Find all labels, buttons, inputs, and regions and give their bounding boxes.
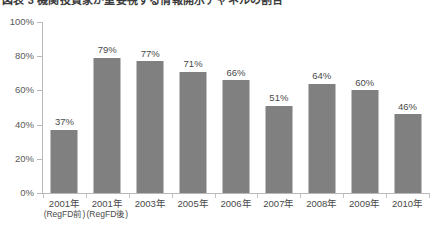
- bar-group[interactable]: 71%: [172, 22, 215, 193]
- bar-value-label: 77%: [141, 49, 160, 59]
- bar-value-label: 79%: [98, 45, 117, 55]
- x-axis-category-main: 2007年: [263, 198, 294, 209]
- y-axis-tick-label: 60%: [0, 85, 34, 95]
- x-axis-category-main: 2003年: [135, 198, 166, 209]
- y-axis-tick-label-text: 20%: [0, 154, 34, 164]
- bar[interactable]: [394, 114, 421, 193]
- bar-group[interactable]: 60%: [343, 22, 386, 193]
- bar[interactable]: [137, 61, 164, 193]
- y-axis-tick-label: 20%: [0, 154, 34, 164]
- bar-group[interactable]: 51%: [257, 22, 300, 193]
- y-axis-tick-label-text: 60%: [0, 85, 34, 95]
- y-axis-tick-label: 80%: [0, 51, 34, 61]
- bar[interactable]: [222, 80, 249, 193]
- y-axis-tick: [37, 193, 42, 194]
- y-axis-tick-label: 40%: [0, 120, 34, 130]
- bar-group[interactable]: 66%: [215, 22, 258, 193]
- x-axis-line: [42, 193, 430, 194]
- y-axis-tick-label: 0%: [0, 188, 34, 198]
- bar-group[interactable]: 64%: [300, 22, 343, 193]
- bar-value-label: 66%: [226, 68, 245, 78]
- x-axis-category-main: 2010年: [392, 198, 423, 209]
- bar[interactable]: [265, 106, 292, 193]
- y-axis-tick: [37, 125, 42, 126]
- bar-value-label: 60%: [355, 78, 374, 88]
- bar-value-label: 64%: [312, 71, 331, 81]
- bar-value-label: 46%: [398, 102, 417, 112]
- x-axis-category-main: 2005年: [178, 198, 209, 209]
- x-axis-category-main: 2001年: [92, 198, 123, 209]
- bar[interactable]: [308, 84, 335, 193]
- bar-chart: 0%20%40%60%80%100% 2001年(RegFD前)2001年(Re…: [0, 0, 436, 234]
- y-axis-tick-label-text: 40%: [0, 120, 34, 130]
- bar[interactable]: [351, 90, 378, 193]
- bar-value-label: 37%: [55, 117, 74, 127]
- bar-value-label: 71%: [184, 59, 203, 69]
- y-axis-tick-label-text: 0%: [0, 188, 34, 198]
- x-axis-category-sub: (RegFD後): [81, 209, 133, 219]
- bar-group[interactable]: 79%: [86, 22, 129, 193]
- x-axis-category-main: 2008年: [306, 198, 337, 209]
- bar-group[interactable]: 37%: [43, 22, 86, 193]
- bar-value-label: 51%: [269, 93, 288, 103]
- x-axis-category-main: 2009年: [349, 198, 380, 209]
- bar[interactable]: [51, 130, 78, 193]
- bar[interactable]: [180, 72, 207, 193]
- y-axis-tick: [37, 56, 42, 57]
- bar-group[interactable]: 46%: [386, 22, 429, 193]
- y-axis-tick: [37, 22, 42, 23]
- bar-group[interactable]: 77%: [129, 22, 172, 193]
- y-axis-tick: [37, 90, 42, 91]
- y-axis-tick-label-text: 100%: [0, 17, 34, 27]
- y-axis-tick-label: 100%: [0, 17, 34, 27]
- x-axis-category-main: 2006年: [220, 198, 251, 209]
- x-axis-category-main: 2001年: [49, 198, 80, 209]
- y-axis-tick: [37, 159, 42, 160]
- x-axis-tick: [43, 194, 44, 198]
- y-axis-tick-label-text: 80%: [0, 51, 34, 61]
- x-axis-category-label: 2010年: [382, 198, 434, 209]
- bar[interactable]: [94, 58, 121, 193]
